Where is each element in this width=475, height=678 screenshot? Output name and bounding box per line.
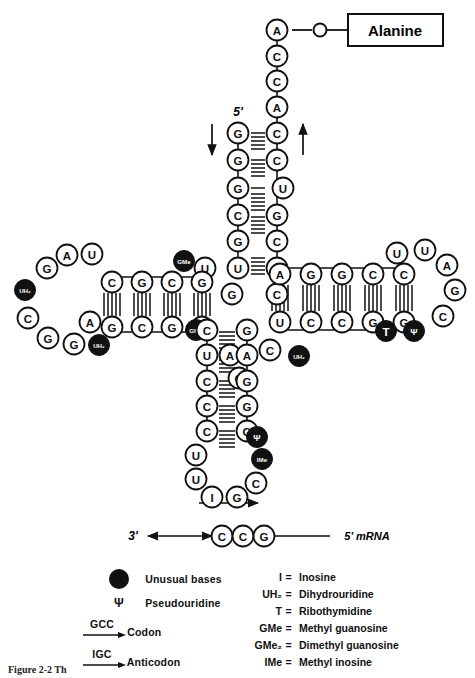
anticodon-stem-left-1: U <box>197 345 218 366</box>
anticodon-stem-right-3: G <box>237 396 258 417</box>
dstem-bottom-1: C <box>132 317 153 338</box>
base-label: C <box>108 277 116 289</box>
base-label: U <box>393 248 401 260</box>
rung-group-dstem <box>104 293 210 316</box>
legend-meaning: Methyl inosine <box>299 656 372 668</box>
mrna-label: 5' mRNA <box>344 530 389 542</box>
base-label: I <box>210 492 213 504</box>
anticodon-loop-2: I <box>202 487 223 508</box>
base-label: U <box>192 450 200 462</box>
figure-caption: Figure 2-2 Th <box>8 664 67 675</box>
base-label: G <box>138 277 147 289</box>
dstem-top-3: G <box>192 272 213 293</box>
legend-pseudouridine-label: Pseudouridine <box>145 597 221 609</box>
nucleotide-bases: ACCACCUGCUCGGGCGUGUGMeCGCGGCGCGAUUH₂CGGU… <box>15 20 466 547</box>
tstem-bottom-1: C <box>301 312 322 333</box>
variable-c: C <box>260 340 281 361</box>
dloop-4: C <box>18 308 39 329</box>
base-label: A <box>63 250 71 262</box>
legend-abbrev-row: GMe=Methyl guanosine <box>238 619 399 636</box>
base-label: C <box>369 269 377 281</box>
anticodon-stem-left-2: C <box>197 371 218 392</box>
legend-meaning: Inosine <box>299 571 336 583</box>
base-label: G <box>451 285 460 297</box>
anticodon-loop-1: U <box>186 469 207 490</box>
dloop-2: U <box>82 244 103 265</box>
legend-abbreviations: I=InosineUH₂=DihydrouridineT=Ribothymidi… <box>238 568 399 670</box>
legend-meaning: Methyl guanosine <box>299 622 388 634</box>
mrna-base-0: C <box>212 526 233 547</box>
base-label: GMe <box>177 258 191 265</box>
strand-direction-arrows <box>212 124 303 155</box>
base-label: C <box>338 317 346 329</box>
acceptor-3prime-6: U <box>273 178 294 199</box>
dloop-0: G <box>37 258 58 279</box>
legend-abbrev: IMe <box>238 656 282 668</box>
three-prime-label: 3' <box>128 529 139 543</box>
base-label: C <box>24 313 32 325</box>
tloop-6: T <box>376 321 397 342</box>
figure-canvas: Alanine 5' 3' 5' mRNA ACCACCUGCUCGGGCGUG… <box>0 0 475 678</box>
base-label: C <box>273 155 281 167</box>
base-label: A <box>273 25 281 37</box>
anticodon-loop-3: G <box>227 487 248 508</box>
acceptor-3prime-3: A <box>267 97 288 118</box>
tloop-3: G <box>445 280 466 301</box>
junction-gme-upper: GMe <box>174 251 195 272</box>
base-label: G <box>44 333 53 345</box>
base-label: T <box>382 326 389 338</box>
base-label: G <box>307 269 316 281</box>
base-label: C <box>168 277 176 289</box>
base-label: G <box>233 492 242 504</box>
base-label: C <box>439 311 447 323</box>
psi-symbol: Ψ <box>96 596 142 610</box>
anticodon-stem-right-0: G <box>237 320 258 341</box>
base-label: UH₂ <box>93 342 105 349</box>
base-label: U <box>88 249 96 261</box>
tstem-top-3: C <box>363 264 384 285</box>
legend-abbrev-row: I=Inosine <box>238 568 399 585</box>
dloop-7: UH₂ <box>89 335 110 356</box>
anticodon-stem-left-3: C <box>197 396 218 417</box>
legend-anticodon-label: Anticodon <box>127 656 181 668</box>
base-label: C <box>266 345 274 357</box>
base-label: C <box>203 325 211 337</box>
base-label: G <box>243 376 252 388</box>
legend-abbrev-row: UH₂=Dihydrouridine <box>238 585 399 602</box>
anticodon-stem-right-2: G <box>237 371 258 392</box>
base-label: G <box>234 236 243 248</box>
base-label: U <box>192 474 200 486</box>
legend-abbrev: GMe₂ <box>238 639 282 651</box>
filled-circle-icon <box>96 568 142 590</box>
acceptor-5prime-3: C <box>228 205 249 226</box>
dstem-top-2: C <box>162 272 183 293</box>
base-label: C <box>273 289 281 301</box>
dstem-bottom-2: G <box>162 317 183 338</box>
legend-abbrev: T <box>238 605 282 617</box>
tloop-2: A <box>437 255 458 276</box>
base-label: G <box>168 322 177 334</box>
base-label: C <box>273 128 281 140</box>
base-label: C <box>273 51 281 63</box>
anticodon-stem-left-0: C <box>197 320 218 341</box>
five-prime-label: 5' <box>233 105 244 119</box>
acceptor-3prime-1: C <box>267 46 288 67</box>
legend-unusual-bases-label: Unusual bases <box>145 573 222 585</box>
legend-anticodon-symbol: IGC <box>80 648 124 660</box>
base-label: C <box>400 269 408 281</box>
legend-abbrev: I <box>238 571 282 583</box>
base-label: G <box>260 531 269 543</box>
base-label: U <box>279 183 287 195</box>
acceptor-5prime-0: G <box>228 123 249 144</box>
base-label: G <box>338 269 347 281</box>
legend-meaning: Dimethyl guanosine <box>299 639 399 651</box>
acceptor-3prime-2: C <box>267 71 288 92</box>
base-label: U <box>421 245 429 257</box>
legend-codon-label: Codon <box>127 626 161 638</box>
base-label: C <box>218 531 226 543</box>
anticodon-loop-6: Ψ <box>247 427 268 448</box>
legend-equals: = <box>282 571 295 583</box>
base-label: G <box>243 325 252 337</box>
base-label: C <box>203 401 211 413</box>
base-label: C <box>239 531 247 543</box>
